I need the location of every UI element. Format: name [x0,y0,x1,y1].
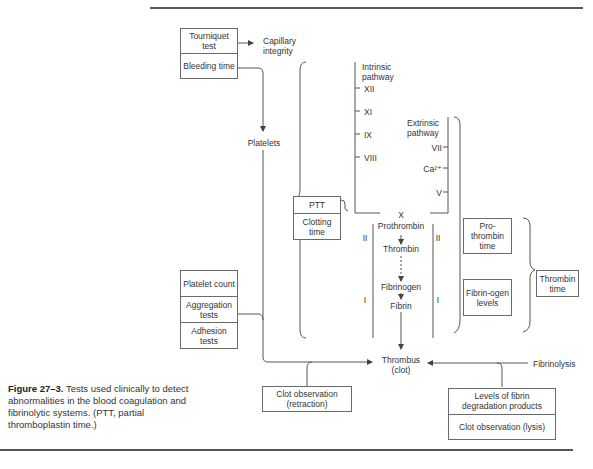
prothrombin-time-box: Pro-thrombin time [463,218,512,254]
aggregation-tests: Aggregation tests [181,296,237,322]
platelet-tests-box: Platelet count Aggregation tests Adhesio… [180,270,238,349]
ptt: PTT [294,197,340,213]
extrinsic-pathway-label: Extrinsic pathway [407,118,447,138]
fibrinolysis-tests-box: Levels of fibrin degradation products Cl… [448,388,556,440]
clot-retraction-box: Clot observation (retraction) [262,386,352,412]
tourniquet-test: Tourniquet test [181,29,237,53]
bleeding-time: Bleeding time [181,53,237,78]
clot-observation-retraction: Clot observation (retraction) [263,387,351,411]
prothrombin: Prothrombin [376,221,426,231]
caption-label: Figure 27–3. [8,383,63,394]
fibrinogen-levels-box: Fibrin-ogen levels [463,279,512,316]
platelets-label: Platelets [243,138,285,148]
roman-ii-right: II [433,233,443,243]
prothrombin-time: Pro-thrombin time [464,219,511,253]
factor-v: V [420,188,442,198]
roman-i-right: I [433,295,443,305]
factor-viii: VIII [364,153,377,163]
clotting-time: Clotting time [294,213,340,239]
fibrinogen-levels: Fibrin-ogen levels [464,280,511,315]
factor-ix: IX [364,130,372,140]
figure-caption: Figure 27–3. Tests used clinically to de… [8,383,193,431]
capillary-integrity-label: Capillary integrity [263,36,313,56]
fibrin: Fibrin [376,301,426,311]
factor-vii: VII [420,143,442,153]
factor-x: X [381,210,421,220]
calcium: Ca²⁺ [418,164,442,174]
fibrinogen: Fibrinogen [376,282,426,292]
factor-xi: XI [364,107,372,117]
factor-xii: XII [364,84,374,94]
fdp-levels: Levels of fibrin degradation products [449,389,555,414]
tourniquet-bleeding-box: Tourniquet test Bleeding time [180,28,238,79]
thrombin-time: Thrombin time [537,271,578,296]
thrombin-time-box: Thrombin time [536,270,579,297]
intrinsic-pathway-label: Intrinsic pathway [362,62,402,82]
roman-i-left: I [360,295,370,305]
ptt-clotting-box: PTT Clotting time [293,196,341,240]
thrombus-clot: Thrombus (clot) [375,355,427,375]
clot-observation-lysis: Clot observation (lysis) [449,414,555,440]
adhesion-tests: Adhesion tests [181,322,237,348]
fibrinolysis-label: Fibrinolysis [533,359,576,369]
roman-ii-left: II [360,233,370,243]
thrombin: Thrombin [376,244,426,254]
platelet-count: Platelet count [181,271,237,296]
